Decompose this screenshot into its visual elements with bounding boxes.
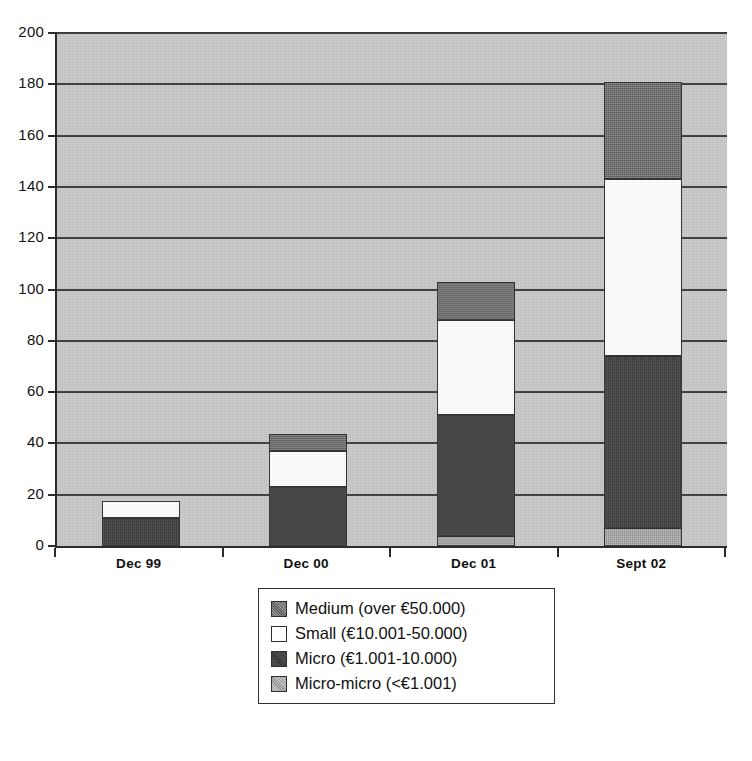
- y-tick-label-0: 0: [35, 536, 44, 553]
- legend-label: Micro (€1.001-10.000): [295, 650, 457, 667]
- bar-segment-micromicro[interactable]: [437, 536, 515, 546]
- x-tick-label-dec-00: Dec 00: [236, 556, 376, 571]
- chart-legend: Medium (over €50.000)Small (€10.001-50.0…: [258, 588, 555, 704]
- bar-segment-small[interactable]: [269, 451, 347, 487]
- bar-segment-small[interactable]: [102, 501, 180, 518]
- x-tick-mark-origin: [54, 548, 56, 557]
- y-tick-label-120: 120: [18, 228, 44, 245]
- legend-swatch-micro-icon: [271, 651, 287, 667]
- legend-label: Micro-micro (<€1.001): [295, 675, 457, 692]
- y-tick-label-40: 40: [27, 433, 44, 450]
- legend-swatch-small-icon: [271, 626, 287, 642]
- legend-swatch-micromicro-icon: [271, 676, 287, 692]
- bar-group-dec-01[interactable]: [437, 33, 515, 546]
- y-tick-label-60: 60: [27, 382, 44, 399]
- x-tick-label-dec-99: Dec 99: [69, 556, 209, 571]
- bar-segment-micro[interactable]: [604, 356, 682, 528]
- legend-item-micro[interactable]: Micro (€1.001-10.000): [271, 646, 544, 671]
- y-tick-label-80: 80: [27, 331, 44, 348]
- bar-segment-micro[interactable]: [437, 415, 515, 536]
- bar-group-dec-99[interactable]: [102, 33, 180, 546]
- legend-item-medium[interactable]: Medium (over €50.000): [271, 596, 544, 621]
- bar-segment-small[interactable]: [437, 320, 515, 415]
- y-tick-label-20: 20: [27, 485, 44, 502]
- legend-label: Medium (over €50.000): [295, 600, 466, 617]
- bar-segment-micro[interactable]: [102, 518, 180, 546]
- legend-label: Small (€10.001-50.000): [295, 625, 467, 642]
- bar-segment-micro[interactable]: [269, 487, 347, 546]
- bar-group-sept-02[interactable]: [604, 33, 682, 546]
- y-tick-label-160: 160: [18, 126, 44, 143]
- bar-segment-medium[interactable]: [604, 82, 682, 179]
- legend-item-small[interactable]: Small (€10.001-50.000): [271, 621, 544, 646]
- stacked-bar-chart: 020406080100120140160180200 Dec 99Dec 00…: [0, 0, 752, 761]
- bar-group-dec-00[interactable]: [269, 33, 347, 546]
- legend-item-micromicro[interactable]: Micro-micro (<€1.001): [271, 671, 544, 696]
- x-tick-mark-2: [557, 548, 559, 557]
- x-tick-mark-1: [389, 548, 391, 557]
- x-tick-mark-3: [724, 548, 726, 557]
- bar-segment-medium[interactable]: [269, 434, 347, 451]
- y-tick-label-100: 100: [18, 280, 44, 297]
- x-tick-mark-0: [222, 548, 224, 557]
- bar-segment-small[interactable]: [604, 179, 682, 356]
- x-tick-label-dec-01: Dec 01: [404, 556, 544, 571]
- y-tick-label-180: 180: [18, 74, 44, 91]
- legend-swatch-medium-icon: [271, 601, 287, 617]
- bar-segment-micromicro[interactable]: [604, 528, 682, 546]
- plot-area: [55, 33, 727, 548]
- y-tick-label-200: 200: [18, 23, 44, 40]
- y-tick-label-140: 140: [18, 177, 44, 194]
- x-tick-label-sept-02: Sept 02: [571, 556, 711, 571]
- bar-segment-medium[interactable]: [437, 282, 515, 320]
